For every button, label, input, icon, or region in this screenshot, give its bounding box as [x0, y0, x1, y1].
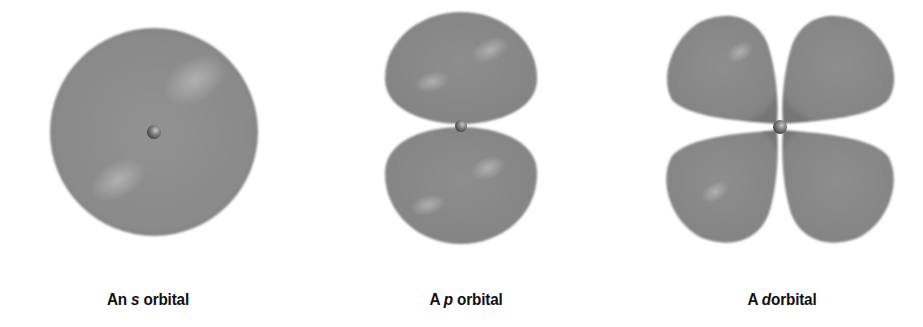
label-prefix: A [429, 290, 443, 309]
p-lobe-bottom [385, 127, 537, 244]
d-orbital-lobes [666, 16, 894, 243]
d-nucleus [773, 120, 787, 134]
d-lobe-lower-right [782, 130, 894, 243]
p-nucleus [455, 120, 467, 132]
orbital-diagram: An s orbital A p orbital A dorbital [0, 0, 923, 327]
d-lobe-upper-right [782, 16, 894, 124]
d-lobe-upper-left [667, 16, 778, 124]
label-suffix: orbital [453, 290, 503, 309]
label-letter: d [762, 290, 771, 309]
orbital-shapes [0, 0, 923, 280]
s-orbital-label: An s orbital [107, 290, 189, 310]
label-prefix: An [107, 290, 131, 309]
label-suffix: orbital [139, 290, 189, 309]
label-suffix: orbital [771, 290, 816, 309]
label-letter: p [444, 290, 453, 309]
s-nucleus [147, 125, 161, 139]
label-prefix: A [747, 290, 761, 309]
d-orbital-label: A dorbital [747, 290, 816, 310]
p-orbital-label: A p orbital [429, 290, 502, 310]
label-letter: s [131, 290, 139, 309]
s-orbital-sphere [50, 28, 258, 236]
p-lobe-top [385, 12, 537, 124]
p-orbital-lobes [385, 12, 537, 244]
